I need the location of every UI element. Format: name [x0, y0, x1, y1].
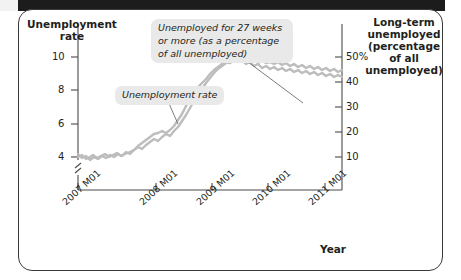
axis-break-icon [75, 163, 81, 173]
right-tick-label-40: 40 [346, 76, 359, 88]
right-axis-title-line5: unemployed) [365, 64, 443, 76]
callout-longterm-unemployed: Unemployed for 27 weeks or more (as a pe… [151, 19, 293, 63]
left-tick-label-8: 8 [58, 84, 64, 96]
left-tick-label-4: 4 [58, 151, 64, 163]
x-axis-title: Year [320, 243, 346, 255]
callout-unemployment-rate: Unemployment rate [115, 86, 224, 105]
right-tick-label-10: 10 [346, 151, 359, 163]
right-axis-title-line2: unemployed [368, 28, 441, 40]
right-axis-title-line3: (percentage [368, 40, 440, 52]
right-axis-title-line4: of all [389, 52, 419, 64]
right-tick-label-50: 50% [346, 51, 368, 63]
right-axis-title-line1: Long-term [373, 16, 435, 28]
right-tick-label-30: 30 [346, 101, 359, 113]
left-axis-title: Unemployment rate [22, 18, 122, 42]
right-axis-title: Long-term unemployed (percentage of all … [358, 16, 450, 76]
left-tick-label-10: 10 [52, 51, 65, 63]
figure-container: Unemployment rate 10 8 6 4 Long-term une… [0, 0, 461, 280]
left-axis-title-line2: rate [60, 30, 84, 42]
right-tick-label-20: 20 [346, 126, 359, 138]
left-axis-title-line1: Unemployment [27, 18, 117, 30]
left-tick-label-6: 6 [58, 118, 64, 130]
